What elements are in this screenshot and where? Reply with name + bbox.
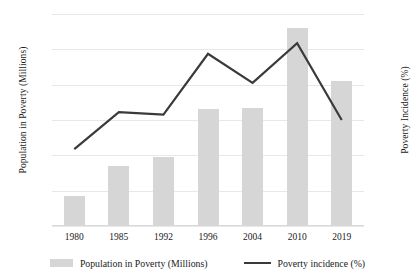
poverty-incidence-line [74,43,341,149]
chart-legend: Population in Poverty (Millions) Poverty… [0,253,415,273]
chart-container: Population in Poverty (Millions) Poverty… [0,0,415,280]
legend-label-incidence: Poverty incidence (%) [278,258,366,269]
legend-bar-swatch-icon [50,259,73,267]
y-axis-left-title: Population in Poverty (Millions) [18,35,28,185]
x-tick-label: 1992 [140,232,186,242]
line-series [52,14,364,226]
x-tick-label: 1985 [96,232,142,242]
gridline [52,226,364,227]
legend-item-incidence: Poverty incidence (%) [244,258,366,269]
legend-label-population: Population in Poverty (Millions) [80,258,208,269]
x-axis-line [52,225,364,226]
y-axis-right-title: Poverty Incidence (%) [400,35,410,185]
x-tick-label: 2010 [274,232,320,242]
x-tick-label: 1980 [51,232,97,242]
legend-line-swatch-icon [244,262,271,265]
plot-area [52,14,364,226]
x-tick-label: 2004 [230,232,276,242]
x-tick-label: 2019 [319,232,365,242]
x-tick-label: 1996 [185,232,231,242]
legend-item-population: Population in Poverty (Millions) [50,258,208,269]
